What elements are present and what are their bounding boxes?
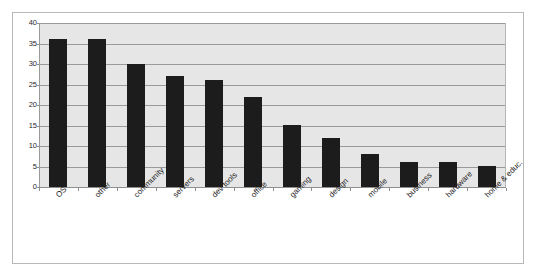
x-axis-tick-mark xyxy=(311,188,312,191)
y-axis-line xyxy=(39,23,40,187)
x-axis-tick-label: dev tools xyxy=(210,193,211,194)
x-axis-tick-mark xyxy=(467,188,468,191)
y-axis-tick-mark xyxy=(37,126,39,127)
y-axis-tick-mark xyxy=(37,105,39,106)
gridline xyxy=(39,85,506,86)
x-axis-tick-mark xyxy=(389,188,390,191)
y-axis-tick-label: 5 xyxy=(15,163,37,171)
plot-area xyxy=(39,23,506,187)
y-axis-tick-label: 35 xyxy=(15,40,37,48)
x-axis-tick-label: servers xyxy=(171,193,172,194)
gridline xyxy=(39,64,506,65)
y-axis-tick-mark xyxy=(37,85,39,86)
gridline xyxy=(39,126,506,127)
bar xyxy=(127,64,145,187)
bar xyxy=(49,39,67,187)
y-axis-tick-label: 20 xyxy=(15,101,37,109)
bar xyxy=(283,125,301,187)
x-axis-tick-label: community xyxy=(132,193,133,194)
gridline xyxy=(39,105,506,106)
y-axis-tick-label: 30 xyxy=(15,60,37,68)
x-axis-tick-label: hardware xyxy=(444,193,445,194)
y-axis-tick-mark xyxy=(37,23,39,24)
bar xyxy=(88,39,106,187)
x-axis-tick-mark xyxy=(506,188,507,191)
y-axis-tick-label: 25 xyxy=(15,81,37,89)
x-axis-tick-mark xyxy=(195,188,196,191)
y-axis-tick-label: 15 xyxy=(15,122,37,130)
gridline xyxy=(39,146,506,147)
y-axis-tick-label: 0 xyxy=(15,183,37,191)
x-axis-tick-mark xyxy=(117,188,118,191)
x-axis-tick-label: gaming xyxy=(288,193,289,194)
x-axis-tick-mark xyxy=(428,188,429,191)
bar xyxy=(322,138,340,187)
y-axis-tick-mark xyxy=(37,64,39,65)
gridline xyxy=(39,44,506,45)
gridline xyxy=(39,167,506,168)
x-axis-tick-mark xyxy=(78,188,79,191)
x-axis-tick-mark xyxy=(273,188,274,191)
bar xyxy=(166,76,184,187)
x-axis-tick-mark xyxy=(350,188,351,191)
x-axis-tick-label: business xyxy=(405,193,406,194)
y-axis-tick-label: 10 xyxy=(15,142,37,150)
y-axis-tick-mark xyxy=(37,167,39,168)
y-axis-tick-mark xyxy=(37,146,39,147)
x-axis-tick-label: mobile xyxy=(366,193,367,194)
bar xyxy=(205,80,223,187)
x-axis-tick-label: other xyxy=(93,193,94,194)
chart-frame: 4035302520151050 OSothercommunityservers… xyxy=(12,12,524,264)
x-axis-tick-mark xyxy=(39,188,40,191)
plot-right-border xyxy=(505,23,506,187)
y-axis-tick-mark xyxy=(37,44,39,45)
x-axis-tick-mark xyxy=(156,188,157,191)
y-axis: 4035302520151050 xyxy=(13,23,37,187)
x-axis-tick-label: office xyxy=(249,193,250,194)
bar xyxy=(244,97,262,187)
x-axis-tick-label: OS xyxy=(54,193,55,194)
x-axis-tick-label: design xyxy=(327,193,328,194)
x-axis-tick-mark xyxy=(234,188,235,191)
y-axis-tick-label: 40 xyxy=(15,19,37,27)
gridline xyxy=(39,23,506,24)
x-axis-tick-label: home & educ. xyxy=(483,193,484,194)
